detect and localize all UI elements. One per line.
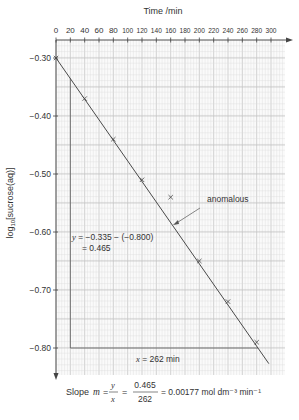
svg-text:220: 220 xyxy=(208,27,219,34)
svg-text:100: 100 xyxy=(122,27,133,34)
svg-text:20: 20 xyxy=(66,26,75,35)
sucrose-log-chart: 0204060801001201401601802002202402602803… xyxy=(0,0,299,420)
svg-text:m: m xyxy=(93,387,100,397)
svg-text:80: 80 xyxy=(109,26,118,35)
svg-text:= 0.00177 mol dm⁻³ min⁻¹: = 0.00177 mol dm⁻³ min⁻¹ xyxy=(161,387,261,397)
svg-text:60: 60 xyxy=(95,26,104,35)
svg-text:=: = xyxy=(122,387,127,397)
svg-text:200: 200 xyxy=(194,27,205,34)
svg-text:−0.30: −0.30 xyxy=(29,53,51,63)
svg-text:Slope: Slope xyxy=(66,387,89,397)
x-axis-arrow-icon xyxy=(286,38,293,43)
svg-text:160: 160 xyxy=(165,27,176,34)
svg-text:120: 120 xyxy=(136,27,147,34)
svg-text:−0.70: −0.70 xyxy=(29,285,51,295)
svg-text:=: = xyxy=(103,387,108,397)
svg-text:−0.80: −0.80 xyxy=(29,343,51,353)
grid xyxy=(56,40,285,375)
svg-text:0.465: 0.465 xyxy=(134,380,156,390)
svg-text:x: x xyxy=(110,394,115,404)
svg-text:260: 260 xyxy=(237,27,248,34)
svg-text:y: y xyxy=(110,380,115,390)
svg-text:40: 40 xyxy=(80,26,89,35)
y-axis-label: log10[sucrose(aq)] xyxy=(5,167,16,238)
y-calc-line2: = 0.465 xyxy=(82,243,111,253)
slope-equation: Slope m = y x = 0.465 262 = 0.00177 mol … xyxy=(66,380,261,404)
svg-text:140: 140 xyxy=(151,27,162,34)
anomalous-label: anomalous xyxy=(207,194,249,204)
svg-text:−0.40: −0.40 xyxy=(29,111,51,121)
y-axis-arrow-icon xyxy=(54,373,59,380)
x-axis-label: Time /min xyxy=(143,6,182,16)
svg-text:240: 240 xyxy=(222,27,233,34)
y-calc-line1: y = −0.335 − (−0.800) xyxy=(71,232,153,242)
x-calc: x = 262 min xyxy=(135,354,180,364)
svg-text:−0.50: −0.50 xyxy=(29,169,51,179)
svg-text:262: 262 xyxy=(138,394,152,404)
svg-text:280: 280 xyxy=(251,27,262,34)
svg-text:300: 300 xyxy=(265,27,276,34)
svg-text:180: 180 xyxy=(179,27,190,34)
svg-text:log10[sucrose(aq)]: log10[sucrose(aq)] xyxy=(5,167,16,238)
svg-text:0: 0 xyxy=(54,26,59,35)
svg-text:−0.60: −0.60 xyxy=(29,227,51,237)
